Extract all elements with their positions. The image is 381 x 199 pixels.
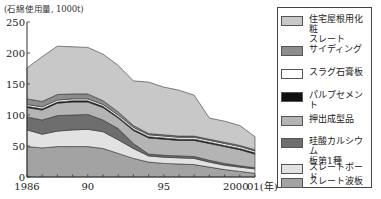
legend-item-extruded-products: 押出成型品 (281, 114, 371, 126)
tick-label: 1986 (14, 181, 39, 192)
legend: 住宅屋根用化粧 スレート サイディング スラグ石膏板 パルプセメント 押出成型品… (277, 7, 372, 188)
tick-label: 250 (6, 17, 25, 28)
legend-swatch (281, 178, 303, 188)
legend-label: 住宅屋根用化粧 スレート (309, 14, 371, 44)
legend-item-siding: サイディング (281, 44, 371, 56)
legend-label: サイディング (309, 44, 371, 54)
legend-swatch (281, 69, 303, 79)
legend-label: スラグ石膏板 (309, 67, 371, 77)
legend-swatch (281, 116, 303, 126)
legend-swatch (281, 164, 303, 174)
tick-label: 200 (6, 48, 25, 59)
tick-label: 95 (157, 181, 170, 192)
tick-label: 100 (6, 110, 25, 121)
tick-label: 150 (6, 79, 25, 90)
legend-swatch (281, 138, 303, 148)
legend-item-corrugated-slate: スレート波板 (281, 176, 371, 188)
tick-label: 01(年) (247, 180, 278, 192)
legend-swatch (281, 46, 303, 56)
legend-label: パルプセメント (309, 90, 371, 110)
legend-item-roof-slate: 住宅屋根用化粧 スレート (281, 14, 371, 44)
legend-item-pulp-cement: パルプセメント (281, 90, 371, 110)
legend-label: スレート波板 (309, 176, 371, 186)
tick-label: 90 (81, 181, 94, 192)
legend-swatch (281, 92, 303, 102)
legend-swatch (281, 16, 303, 26)
legend-label: 押出成型品 (309, 114, 371, 124)
tick-label: 2000 (223, 181, 248, 192)
tick-label: 50 (12, 141, 25, 152)
legend-item-slag-gypsum-board: スラグ石膏板 (281, 67, 371, 79)
area-layers (27, 46, 255, 177)
